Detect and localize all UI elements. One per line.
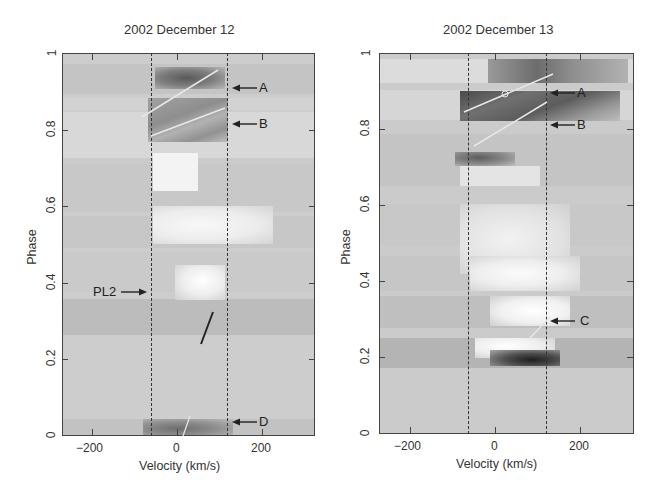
y-tick — [627, 281, 633, 282]
x-tick-label: 200 — [569, 439, 589, 453]
x-tick — [580, 53, 581, 60]
y-tick — [379, 129, 385, 130]
x-tick — [495, 53, 496, 60]
label-a: A — [577, 85, 586, 100]
y-axis-title: Phase — [339, 227, 353, 267]
y-tick — [379, 205, 385, 206]
label-c: C — [580, 313, 589, 328]
y-tick-label: 1 — [359, 46, 373, 60]
y-tick-label: 0.8 — [358, 115, 372, 141]
y-tick-label: 0.2 — [358, 343, 372, 369]
y-tick — [627, 357, 633, 358]
x-tick — [580, 427, 581, 434]
x-axis-title: Velocity (km/s) — [456, 457, 537, 471]
y-tick-label: 0.4 — [358, 267, 372, 293]
y-tick-label: 0.6 — [358, 191, 372, 217]
x-tick-label: −200 — [394, 439, 421, 453]
panel-dec-13: 2002 December 13 A B C — [0, 0, 656, 493]
x-tick-label: 0 — [491, 439, 498, 453]
y-tick-label: 0 — [358, 426, 372, 440]
y-tick — [379, 357, 385, 358]
y-tick — [627, 129, 633, 130]
y-tick — [379, 281, 385, 282]
overlay-annotations — [0, 0, 656, 493]
x-tick — [410, 427, 411, 434]
y-tick — [627, 205, 633, 206]
x-tick — [495, 427, 496, 434]
label-b: B — [577, 117, 586, 132]
x-tick — [410, 53, 411, 60]
